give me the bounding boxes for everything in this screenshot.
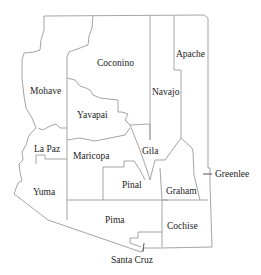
county-label-mohave: Mohave xyxy=(30,87,61,97)
county-label-navajo: Navajo xyxy=(152,88,179,98)
navajo-apache-boundary xyxy=(174,16,181,138)
county-label-coconino: Coconino xyxy=(97,59,134,69)
county-label-la-paz: La Paz xyxy=(34,145,60,155)
county-label-yuma: Yuma xyxy=(33,188,55,198)
santa-cruz-leader xyxy=(143,243,144,252)
maricopa-yavapai-boundary xyxy=(67,128,130,141)
county-label-maricopa: Maricopa xyxy=(73,152,109,162)
county-label-santa-cruz: Santa Cruz xyxy=(111,256,153,266)
county-label-apache: Apache xyxy=(176,50,205,60)
county-label-cochise: Cochise xyxy=(167,222,198,232)
mohave-boundary xyxy=(38,16,93,140)
county-label-pima: Pima xyxy=(105,216,125,226)
santa-cruz-boundary xyxy=(130,232,162,247)
lapaz-yuma-boundary xyxy=(36,155,67,164)
county-label-gila: Gila xyxy=(142,147,158,157)
county-label-pinal: Pinal xyxy=(122,181,142,191)
county-label-greenlee: Greenlee xyxy=(215,170,249,180)
arizona-county-map xyxy=(0,0,261,275)
county-label-yavapai: Yavapai xyxy=(77,111,108,121)
county-label-graham: Graham xyxy=(166,187,197,197)
